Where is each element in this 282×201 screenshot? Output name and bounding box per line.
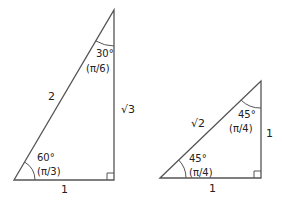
- right-angle-marker: [254, 171, 261, 178]
- angle-label-60-deg: 60°: [37, 152, 55, 163]
- vertical-side-label: 1: [266, 127, 273, 140]
- right-angle-marker: [107, 173, 114, 180]
- base-label: 1: [209, 182, 216, 195]
- angle-arc-45-top: [241, 100, 261, 108]
- angle-label-60-rad: (π/3): [37, 166, 61, 177]
- angle-label-45-top-rad: (π/4): [229, 123, 253, 134]
- triangle-30-60-90-outline: [14, 10, 114, 180]
- hypotenuse-label: √2: [191, 117, 205, 130]
- triangle-45-45-90: 45° (π/4) 45° (π/4) √2 1 1: [160, 81, 273, 195]
- angle-label-45-top-deg: 45°: [238, 109, 256, 120]
- angle-label-30-deg: 30°: [96, 48, 114, 59]
- base-label: 1: [61, 183, 68, 196]
- angle-arc-45-bottom: [179, 160, 186, 178]
- hypotenuse-label: 2: [48, 90, 55, 103]
- angle-label-30-rad: (π/6): [86, 63, 110, 74]
- triangle-30-60-90: 30° (π/6) 60° (π/3) 2 √3 1: [14, 10, 135, 196]
- angle-arc-30: [96, 41, 114, 46]
- angle-label-45-bottom-rad: (π/4): [189, 167, 213, 178]
- special-triangles-diagram: 30° (π/6) 60° (π/3) 2 √3 1 45° (π/4) 45°…: [0, 0, 282, 201]
- angle-label-45-bottom-deg: 45°: [189, 153, 207, 164]
- vertical-side-label: √3: [121, 103, 135, 116]
- angle-arc-60: [25, 162, 36, 180]
